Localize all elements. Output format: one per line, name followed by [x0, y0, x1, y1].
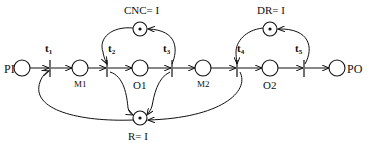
places [14, 22, 345, 125]
token-DR [268, 27, 271, 30]
label-t5: t5 [295, 42, 303, 56]
label-DR: DR= I [257, 4, 285, 16]
label-CNC: CNC= I [124, 4, 160, 16]
label-O1: O1 [133, 79, 146, 91]
place-O1 [132, 60, 148, 76]
place-O2 [262, 60, 278, 76]
labels: PI M1 O1 M2 O2 PO CNC= I DR= I R= I t1 t… [4, 4, 363, 142]
place-PI [14, 60, 30, 76]
place-M1 [72, 60, 88, 76]
label-PI: PI [4, 62, 15, 76]
label-t4: t4 [237, 42, 245, 56]
label-M1: M1 [74, 79, 87, 89]
label-R: R= I [128, 130, 148, 142]
label-t1: t1 [45, 42, 53, 56]
petri-net-diagram: PI M1 O1 M2 O2 PO CNC= I DR= I R= I t1 t… [0, 0, 370, 143]
token-R [138, 116, 141, 119]
token-CNC [138, 27, 141, 30]
label-PO: PO [347, 62, 363, 76]
label-O2: O2 [263, 79, 276, 91]
place-PO [329, 60, 345, 76]
place-M2 [195, 60, 211, 76]
label-t3: t3 [163, 42, 171, 56]
label-M2: M2 [197, 79, 210, 89]
label-t2: t2 [108, 42, 116, 56]
